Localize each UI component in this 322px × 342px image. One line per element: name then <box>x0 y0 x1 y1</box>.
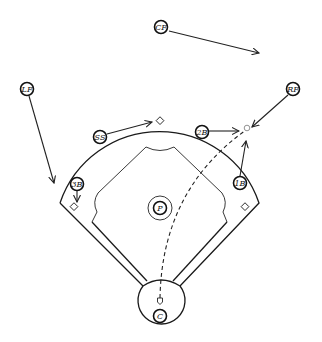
first-base <box>241 203 249 211</box>
rf-arrow <box>252 95 288 127</box>
second-base <box>156 117 164 125</box>
position-3b: 3B <box>71 178 84 191</box>
ball-icon <box>244 125 250 131</box>
baseball-field-diagram: CF LF RF SS 2B 1B 3B P C <box>0 0 322 342</box>
position-label: 3B <box>72 180 83 189</box>
position-p: P <box>154 202 167 215</box>
position-label: RF <box>286 85 299 94</box>
position-label: C <box>157 312 163 321</box>
position-label: 2B <box>196 128 208 137</box>
position-2b: 2B <box>196 126 209 139</box>
position-rf: RF <box>286 83 299 96</box>
position-label: LF <box>21 85 33 94</box>
right-foul-line-inner <box>173 222 227 281</box>
position-label: SS <box>95 133 106 142</box>
position-label: P <box>156 204 163 213</box>
third-base <box>70 203 78 211</box>
left-foul-line-inner <box>92 222 147 281</box>
position-c: C <box>154 310 167 323</box>
lf-arrow <box>29 96 54 183</box>
position-ss: SS <box>94 131 107 144</box>
home-plate <box>158 298 163 305</box>
position-cf: CF <box>155 21 168 34</box>
position-1b: 1B <box>234 177 247 190</box>
1b-arrow <box>240 141 246 176</box>
ball-path <box>160 130 246 298</box>
left-foul-line-outer <box>60 203 143 286</box>
position-lf: LF <box>21 83 34 96</box>
cf-arrow <box>169 31 259 53</box>
position-label: 1B <box>235 179 246 188</box>
position-label: CF <box>155 23 167 32</box>
